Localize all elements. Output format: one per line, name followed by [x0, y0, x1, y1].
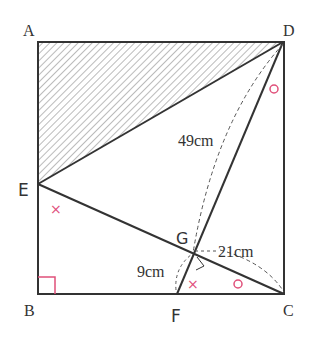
measure-fg: 9cm — [137, 263, 165, 280]
label-g: G — [176, 229, 188, 248]
label-b: B — [24, 302, 35, 319]
geometry-figure: × × A D B C E F G 49cm 21cm 9cm — [0, 0, 313, 339]
angle-mark-o-c — [234, 280, 242, 288]
label-e: E — [18, 180, 29, 200]
right-angle-mark-b — [38, 277, 55, 294]
label-a: A — [23, 22, 35, 39]
right-angle-mark-g — [196, 257, 204, 270]
angle-mark-o-d — [270, 85, 278, 93]
measure-gc: 21cm — [218, 243, 254, 260]
angle-mark-x-e: × — [50, 201, 62, 217]
label-d: D — [283, 22, 295, 39]
measure-dg: 49cm — [178, 132, 214, 149]
label-f: F — [171, 306, 181, 326]
label-c: C — [283, 302, 294, 319]
angle-mark-x-f: × — [187, 276, 199, 292]
